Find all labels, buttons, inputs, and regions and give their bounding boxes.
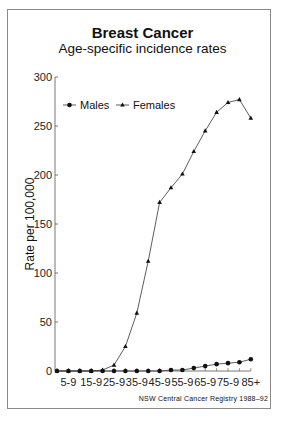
x-tick-label: 65-9 (194, 376, 216, 388)
male-marker (169, 368, 174, 373)
male-marker (123, 369, 128, 374)
female-marker (192, 149, 197, 153)
male-marker (157, 369, 162, 374)
male-marker (112, 369, 117, 374)
x-tick-label: 5-9 (60, 376, 76, 388)
male-marker (192, 366, 197, 371)
x-tick-label: 45-9 (149, 376, 171, 388)
male-marker (249, 357, 254, 362)
females-line (57, 100, 251, 371)
male-marker (214, 362, 219, 367)
male-marker (135, 369, 140, 374)
y-tick-label: 0 (46, 365, 52, 377)
female-marker (135, 311, 140, 315)
males-line (57, 359, 251, 371)
male-marker (237, 360, 242, 365)
y-tick-label: 50 (40, 316, 52, 328)
legend-males-marker (67, 103, 72, 108)
x-tick-label: 85+ (241, 376, 260, 388)
male-marker (180, 368, 185, 373)
x-tick-label: 25-9 (103, 376, 125, 388)
male-marker (226, 361, 231, 366)
x-tick-label: 15-9 (80, 376, 102, 388)
y-tick-label: 300 (34, 71, 52, 83)
plot-area: 0501001502002503005-915-925-935-945-955-… (0, 0, 285, 426)
female-marker (180, 171, 185, 175)
legend-females-marker (120, 102, 125, 106)
female-marker (123, 344, 128, 348)
x-tick-label: 35-9 (126, 376, 148, 388)
legend-females-label: Females (133, 99, 176, 111)
legend-males-label: Males (80, 99, 110, 111)
female-marker (146, 259, 151, 263)
female-marker (237, 97, 242, 101)
x-tick-label: 75-9 (217, 376, 239, 388)
male-marker (203, 364, 208, 369)
y-tick-label: 100 (34, 267, 52, 279)
x-tick-label: 55-9 (171, 376, 193, 388)
y-tick-label: 200 (34, 169, 52, 181)
y-tick-label: 150 (34, 218, 52, 230)
male-marker (146, 369, 151, 374)
female-marker (214, 110, 219, 114)
y-tick-label: 250 (34, 120, 52, 132)
